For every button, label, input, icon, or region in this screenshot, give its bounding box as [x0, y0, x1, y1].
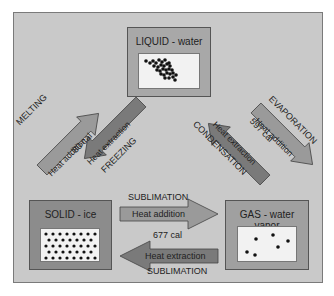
solid-gas-energy-label: 677 cal: [153, 230, 182, 240]
sublimation-reverse-label: SUBLIMATION: [147, 266, 207, 276]
sublimation-reverse-action-label: Heat extraction: [145, 251, 206, 261]
sublimation-forward-label: SUBLIMATION: [128, 192, 188, 202]
sublimation-forward-action-label: Heat addition: [132, 209, 185, 219]
